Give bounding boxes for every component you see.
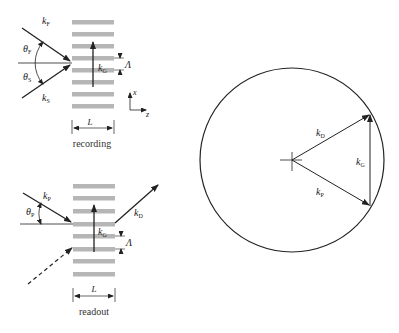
period-marker-readout xyxy=(115,232,125,253)
label-ewald-k-grating: kG xyxy=(356,156,365,168)
label-k-diffracted: kD xyxy=(134,207,143,219)
holographic-grating-diagram: kF θF θS kS kG Λ x z L recording xyxy=(0,0,399,333)
ewald-sphere: kD kP kG xyxy=(200,68,384,252)
label-axis-z: z xyxy=(145,110,150,119)
label-width: L xyxy=(86,117,92,127)
label-ewald-k-probe: kP xyxy=(316,186,324,198)
caption-readout: readout xyxy=(79,306,109,317)
label-k-grating: kG xyxy=(98,62,107,74)
label-theta-reference: θF xyxy=(23,43,32,55)
recording-panel: kF θF θS kS kG Λ x z L recording xyxy=(18,15,150,149)
label-ewald-k-diffracted: kD xyxy=(316,127,325,139)
angle-arc-readout xyxy=(39,203,41,224)
label-theta-signal: θS xyxy=(23,71,31,83)
period-marker xyxy=(114,54,124,74)
caption-recording: recording xyxy=(73,138,111,149)
beam-dashed-arrow xyxy=(28,248,72,284)
label-k-probe: kP xyxy=(43,190,51,202)
label-axis-x: x xyxy=(132,88,137,97)
readout-panel: kP θP kD kG Λ L readout xyxy=(20,184,158,317)
label-k-grating-readout: kG xyxy=(98,226,107,238)
label-k-signal: kS xyxy=(42,92,50,104)
vector-diffracted-arrow xyxy=(292,115,369,160)
width-dimension xyxy=(72,120,114,134)
label-period-readout: Λ xyxy=(125,237,132,248)
label-width-readout: L xyxy=(90,284,96,294)
beam-reference-arrow xyxy=(22,28,70,61)
label-theta-probe: θP xyxy=(26,206,35,218)
label-k-reference: kF xyxy=(42,15,50,27)
label-period: Λ xyxy=(124,59,131,70)
